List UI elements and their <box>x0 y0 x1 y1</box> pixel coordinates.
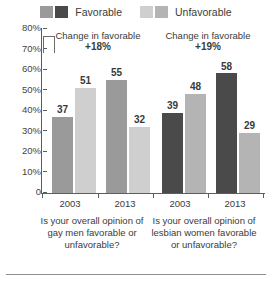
legend-entry-favorable: Favorable <box>40 6 122 18</box>
bar-value-unfavorable-2003: 48 <box>185 81 206 92</box>
y-tick-20: 20% <box>0 145 47 157</box>
x-tick-mark <box>98 194 99 198</box>
x-tick-label-2013-group2: 2013 <box>212 198 258 209</box>
y-tick-70: 70% <box>0 43 47 55</box>
bar-value-favorable-2013: 55 <box>106 67 127 78</box>
legend-swatch-unfavorable-group1 <box>140 6 153 18</box>
legend-swatches-unfavorable <box>140 6 170 18</box>
x-tick-label-2013-group1: 2013 <box>102 198 148 209</box>
y-tick-50: 50% <box>0 84 47 96</box>
bar-pair-2003: 39 48 <box>162 28 206 193</box>
x-tick-label-2003-group1: 2003 <box>47 198 93 209</box>
chart-figure: Favorable Unfavorable 80% 70% 60% 50% <box>0 0 272 290</box>
plot-area: 80% 70% 60% 50% 40% 30% 20% 10% <box>41 28 265 194</box>
bars-container: 37 51 55 32 39 48 <box>42 28 265 193</box>
chart-legend: Favorable Unfavorable <box>0 3 272 21</box>
y-tick-80: 80% <box>0 22 47 34</box>
question-caption-gay-men: Is your overall opinion of gay men favor… <box>38 215 146 251</box>
x-tick-label-2003-group2: 2003 <box>157 198 203 209</box>
bar-group-lesbian-women: 39 48 58 29 <box>162 28 262 193</box>
legend-swatch-favorable-group1 <box>40 6 53 18</box>
bar-unfavorable-2013 <box>239 133 260 193</box>
legend-swatch-unfavorable-group2 <box>155 6 168 18</box>
bar-unfavorable-2003 <box>75 88 96 193</box>
bar-favorable-2013 <box>106 80 127 193</box>
legend-swatches-favorable <box>40 6 70 18</box>
bar-unfavorable-2013 <box>129 127 150 193</box>
bar-favorable-2013 <box>216 73 237 193</box>
bar-pair-2013: 58 29 <box>216 28 260 193</box>
bar-pair-2003: 37 51 <box>52 28 96 193</box>
footer-divider <box>6 274 266 275</box>
x-tick-mark <box>153 194 154 198</box>
x-tick-mark <box>42 194 43 198</box>
bar-group-gay-men: 37 51 55 32 <box>52 28 152 193</box>
legend-entry-unfavorable: Unfavorable <box>140 6 232 18</box>
question-caption-lesbian-women: Is your overall opinion of lesbian women… <box>150 215 258 251</box>
bar-value-favorable-2003: 39 <box>162 100 183 111</box>
bar-value-unfavorable-2003: 51 <box>75 75 96 86</box>
bar-unfavorable-2003 <box>185 94 206 193</box>
bar-value-favorable-2013: 58 <box>216 61 237 72</box>
y-tick-40: 40% <box>0 104 47 116</box>
legend-swatch-favorable-group2 <box>55 6 68 18</box>
legend-label-unfavorable: Unfavorable <box>175 6 232 18</box>
bar-pair-2013: 55 32 <box>106 28 150 193</box>
bar-value-favorable-2003: 37 <box>52 104 73 115</box>
y-tick-30: 30% <box>0 125 47 137</box>
bar-favorable-2003 <box>162 113 183 193</box>
bar-favorable-2003 <box>52 117 73 193</box>
y-tick-60: 60% <box>0 63 47 75</box>
legend-label-favorable: Favorable <box>75 6 122 18</box>
x-tick-mark <box>208 194 209 198</box>
bar-value-unfavorable-2013: 29 <box>239 120 260 131</box>
y-tick-0: 0 <box>0 186 47 198</box>
bar-value-unfavorable-2013: 32 <box>129 114 150 125</box>
x-tick-mark <box>263 194 264 198</box>
y-tick-10: 10% <box>0 166 47 178</box>
